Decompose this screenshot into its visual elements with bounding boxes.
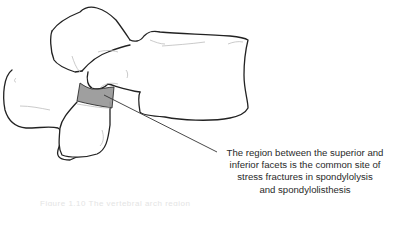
annotation-line-2: inferior facets is the common site of bbox=[214, 159, 396, 171]
annotation-line-1: The region between the superior and bbox=[214, 147, 396, 159]
vertebral-body bbox=[130, 31, 248, 120]
figure-caption: Figure 1.10 The vertebral arch region bbox=[40, 199, 190, 206]
pars-lower-lobe bbox=[59, 102, 110, 157]
superior-articular-process bbox=[51, 31, 82, 72]
annotation-text: The region between the superior and infe… bbox=[214, 147, 396, 196]
annotation-line-3: stress fractures in spondylolysis bbox=[214, 171, 396, 183]
annotation-line-4: and spondylolisthesis bbox=[214, 184, 396, 196]
